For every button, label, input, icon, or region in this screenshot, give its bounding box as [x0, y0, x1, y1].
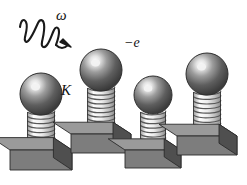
omega-label: ω	[56, 8, 67, 23]
charge-label: −e	[124, 36, 140, 50]
sphere-highlight	[31, 83, 40, 90]
photon-arrowhead	[60, 39, 71, 47]
sphere-highlight	[91, 59, 100, 66]
spring-constant-label: K	[61, 83, 71, 98]
oscillator-2-sphere	[80, 49, 122, 91]
oscillator-diagram: ω −e K	[0, 0, 247, 185]
electron-sphere	[186, 53, 228, 95]
sphere-highlight	[197, 63, 206, 70]
sphere-highlight	[144, 85, 152, 91]
photon-zigzag	[20, 20, 59, 47]
diagram-canvas	[0, 0, 247, 185]
oscillator-1-base	[0, 138, 72, 170]
oscillator-1-sphere	[20, 73, 62, 115]
electron-sphere	[134, 76, 172, 114]
incident-photon-wave	[20, 20, 71, 48]
electron-sphere	[20, 73, 62, 115]
electron-sphere	[80, 49, 122, 91]
oscillator-4-sphere	[186, 53, 228, 95]
oscillator-3-sphere	[134, 76, 172, 114]
